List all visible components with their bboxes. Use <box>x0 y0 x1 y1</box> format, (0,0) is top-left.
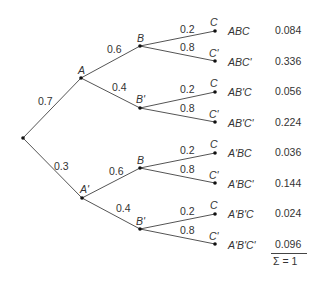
edge-AB-prime-C <box>140 92 215 108</box>
leaf-label-C-3: C <box>210 139 218 150</box>
edge-A-primeB-C-prime <box>140 168 215 183</box>
value-ABC: 0.084 <box>275 25 301 36</box>
edge-prob-A-B: 0.6 <box>107 44 122 55</box>
edge-prob-A: 0.7 <box>38 96 53 107</box>
edge-AB-prime-C-prime <box>140 108 215 122</box>
node-label-A-prime-B: B <box>137 155 144 166</box>
leaf-A-prime-B-prime-C <box>213 212 217 216</box>
value-AB-prime-C: 0.056 <box>275 86 301 97</box>
edge-prob-A-B-prime: 0.4 <box>112 82 127 93</box>
edge-prob-A-prime-B: 0.6 <box>109 166 124 177</box>
root-node <box>21 136 25 140</box>
value-A-prime-B-prime-C-prime: 0.096 <box>275 239 301 250</box>
node-A-B-prime <box>138 106 142 110</box>
edge-AB-C-prime <box>140 46 215 61</box>
node-label-A-prime-B-prime: B' <box>136 216 145 227</box>
edge-prob-A-prime-B-prime: 0.4 <box>116 203 131 214</box>
node-A-prime <box>80 196 84 200</box>
outcome-ABC: ABC <box>228 26 250 37</box>
value-A-prime-BC-prime: 0.144 <box>275 178 301 189</box>
leaf-label-C-1: C <box>210 17 218 28</box>
node-A-prime-B <box>138 166 142 170</box>
sum-label: Σ = 1 <box>273 256 297 267</box>
value-A-prime-BC: 0.036 <box>275 147 301 158</box>
outcome-A-prime-B-prime-C-prime: A'B'C' <box>228 240 256 251</box>
leaf-label-C-prime-4: C' <box>209 231 219 242</box>
leaf-label-C-4: C <box>210 200 218 211</box>
node-A <box>79 76 83 80</box>
leaf-AB-prime-C <box>213 90 217 94</box>
value-A-prime-B-prime-C: 0.024 <box>275 208 301 219</box>
edge-root-A <box>23 78 81 138</box>
value-AB-prime-C-prime: 0.224 <box>275 117 301 128</box>
edge-prob-AB-prime-C-prime: 0.8 <box>180 103 195 114</box>
edge-A-B-prime <box>81 78 140 108</box>
leaf-label-C-prime-2: C' <box>209 109 219 120</box>
node-A-prime-B-prime <box>138 227 142 231</box>
leaf-A-prime-BC-prime <box>213 181 217 185</box>
node-label-A-B: B <box>137 33 144 44</box>
outcome-A-prime-B-prime-C: A'B'C <box>228 209 254 220</box>
edge-prob-A-prime: 0.3 <box>54 161 69 172</box>
leaf-label-C-prime-3: C' <box>209 170 219 181</box>
edge-prob-ABC: 0.2 <box>180 24 195 35</box>
leaf-A-prime-BC <box>213 151 217 155</box>
node-label-A-prime: A' <box>80 184 89 195</box>
edge-prob-ABC-prime: 0.8 <box>180 42 195 53</box>
sum-divider <box>271 253 307 254</box>
edge-A-prime-B-prime <box>82 198 140 229</box>
leaf-ABC-prime <box>213 59 217 63</box>
outcome-A-prime-BC-prime: A'BC' <box>228 179 254 190</box>
edge-prob-A-prime-BC: 0.2 <box>180 145 195 156</box>
edge-prob-A-prime-B-prime-C-prime: 0.8 <box>180 225 195 236</box>
edge-A-primeB-prime-C-prime <box>140 229 215 244</box>
leaf-label-C-prime-1: C' <box>209 48 219 59</box>
outcome-ABC-prime: ABC' <box>228 57 252 68</box>
edge-prob-AB-prime-C: 0.2 <box>180 84 195 95</box>
leaf-label-C-2: C <box>210 78 218 89</box>
edge-A-primeB-C <box>140 153 215 168</box>
edge-prob-A-prime-BC-prime: 0.8 <box>180 164 195 175</box>
outcome-A-prime-BC: A'BC <box>228 148 252 159</box>
outcome-AB-prime-C-prime: AB'C' <box>228 118 254 129</box>
leaf-A-prime-B-prime-C-prime <box>213 242 217 246</box>
node-A-B <box>138 44 142 48</box>
edge-A-primeB-prime-C <box>140 214 215 229</box>
value-ABC-prime: 0.336 <box>275 56 301 67</box>
node-label-A: A <box>78 65 85 76</box>
node-label-A-B-prime: B' <box>136 94 145 105</box>
outcome-AB-prime-C: AB'C <box>228 87 252 98</box>
leaf-AB-prime-C-prime <box>213 120 217 124</box>
leaf-ABC <box>213 29 217 33</box>
edge-AB-C <box>140 31 215 46</box>
edge-root-A-prime <box>23 138 82 198</box>
edge-prob-A-prime-B-prime-C: 0.2 <box>180 206 195 217</box>
